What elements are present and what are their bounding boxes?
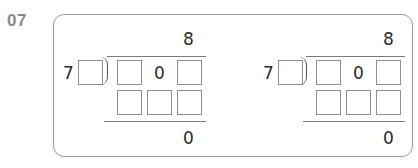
product-ones-box[interactable]	[177, 90, 202, 115]
product-tens-box[interactable]	[346, 90, 371, 115]
remainder-digit: 0	[383, 128, 394, 148]
dividend-hundreds-box[interactable]	[316, 60, 341, 85]
divisor-tens-digit: 7	[263, 63, 274, 83]
division-problem-2: 8 7 0 0	[0, 0, 180, 168]
division-bar	[306, 56, 405, 57]
division-bracket	[299, 57, 307, 85]
quotient-digit: 8	[383, 29, 394, 49]
dividend-ones-box[interactable]	[177, 60, 202, 85]
product-ones-box[interactable]	[376, 90, 401, 115]
quotient-digit: 8	[183, 29, 194, 49]
dividend-tens-digit: 0	[353, 63, 364, 83]
subtraction-line	[303, 121, 405, 122]
remainder-digit: 0	[183, 128, 194, 148]
product-hundreds-box[interactable]	[316, 90, 341, 115]
dividend-ones-box[interactable]	[376, 60, 401, 85]
